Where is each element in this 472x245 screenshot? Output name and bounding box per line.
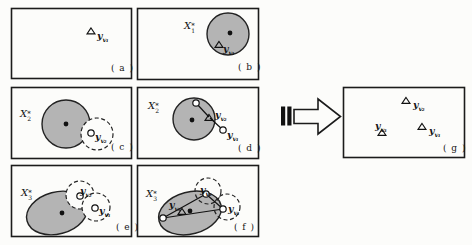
label-f-yv1: yv₁: [228, 199, 239, 216]
label-d-yv2: yv₂: [215, 105, 226, 122]
block-arrow: [294, 99, 341, 134]
label-f-x3: X*3: [146, 184, 157, 202]
label-g-yv3: yv₃: [375, 116, 386, 133]
center-dot-f: [188, 209, 193, 214]
arrow-tail-bar-1: [281, 107, 285, 126]
open-point-e-yv1: [92, 205, 98, 211]
center-dot-e: [60, 211, 65, 216]
center-dot-b: [228, 31, 233, 36]
label-d-x2: X*2: [148, 96, 159, 114]
arrow-tail-bar-2: [287, 107, 291, 126]
panel-e-tag: ( e ): [116, 223, 139, 232]
label-f-yv2: yv₂: [200, 180, 211, 197]
center-dot-c: [64, 122, 69, 127]
figure-canvas: yv₁ X*1 yv₁ X*2 yv₂ X*2 yv₂ yv₁ X*3 yv₂ …: [0, 0, 472, 245]
panel-a-tag: ( a ): [111, 64, 134, 73]
open-point-f-yv1: [220, 206, 226, 212]
open-point-f-yv3: [160, 215, 166, 221]
open-point-c-yv2: [88, 130, 94, 136]
center-dot-d: [190, 118, 195, 123]
label-e-yv1: yv₁: [99, 201, 110, 218]
label-e-x3: X*3: [21, 183, 32, 201]
label-g-yv1: yv₁: [429, 121, 440, 138]
label-e-yv2: yv₂: [80, 181, 91, 198]
panel-g-tag: ( g ): [443, 144, 467, 153]
label-g-yv2: yv₂: [413, 95, 424, 112]
open-point-d-top: [193, 100, 199, 106]
label-d-yv1: yv₁: [227, 125, 238, 142]
label-a-yv1: yv₁: [97, 26, 108, 43]
label-f-yv3: yv₃: [169, 195, 180, 212]
label-b-yv1: yv₁: [223, 39, 234, 56]
label-b-x1: X*1: [184, 16, 195, 34]
panel-f-tag: ( f ): [234, 223, 255, 232]
panel-b-tag: ( b ): [238, 63, 262, 72]
label-c-x2: X*2: [20, 104, 31, 122]
label-c-yv2: yv₂: [95, 127, 106, 144]
panel-d-tag: ( d ): [238, 144, 262, 153]
open-point-d-yv1: [220, 127, 226, 133]
panel-c-tag: ( c ): [111, 143, 134, 152]
